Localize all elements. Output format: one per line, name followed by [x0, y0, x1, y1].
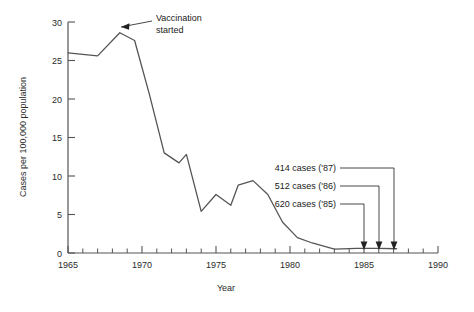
cases-1985-leader-line — [340, 204, 364, 243]
x-tick-label-1975: 1975 — [206, 260, 226, 270]
y-tick-label-0: 0 — [57, 249, 62, 259]
x-axis-tick-labels: 1965 1970 1975 1980 1985 1990 — [58, 260, 448, 270]
cases-1986-label: 512 cases ('86) — [275, 181, 336, 191]
annotation-cases-1986: 512 cases ('86) — [275, 181, 383, 250]
y-tick-label-25: 25 — [52, 56, 62, 66]
y-tick-label-10: 10 — [52, 172, 62, 182]
x-tick-label-1980: 1980 — [280, 260, 300, 270]
data-series-line — [68, 33, 397, 249]
x-tick-label-1985: 1985 — [354, 260, 374, 270]
x-axis-major-ticks — [68, 246, 438, 253]
y-axis-tick-labels: 30 25 20 15 10 5 0 — [52, 18, 62, 259]
line-chart: 30 25 20 15 10 5 0 1965 1970 1975 1980 1… — [0, 0, 474, 312]
x-tick-label-1965: 1965 — [58, 260, 78, 270]
cases-1985-label: 620 cases ('85) — [275, 199, 336, 209]
cases-1987-label: 414 cases ('87) — [275, 163, 336, 173]
y-tick-label-20: 20 — [52, 95, 62, 105]
x-axis-title: Year — [217, 283, 235, 293]
cases-1987-leader-line — [340, 168, 394, 243]
x-tick-label-1970: 1970 — [132, 260, 152, 270]
vaccination-arrow-icon — [121, 23, 130, 30]
chart-container: 30 25 20 15 10 5 0 1965 1970 1975 1980 1… — [0, 0, 474, 312]
y-tick-label-5: 5 — [57, 210, 62, 220]
y-axis-title: Cases per 100,000 population — [18, 77, 28, 197]
x-axis-minor-ticks — [83, 249, 423, 254]
annotation-cases-1985: 620 cases ('85) — [275, 199, 368, 250]
annotation-vaccination-started: Vaccination started — [121, 13, 202, 35]
vaccination-label-line2: started — [156, 25, 184, 35]
y-tick-label-30: 30 — [52, 18, 62, 28]
axes — [68, 22, 438, 253]
x-tick-label-1990: 1990 — [428, 260, 448, 270]
vaccination-label-line1: Vaccination — [156, 13, 202, 23]
y-tick-label-15: 15 — [52, 133, 62, 143]
y-axis-ticks — [68, 22, 75, 253]
cases-1986-leader-line — [340, 186, 379, 243]
